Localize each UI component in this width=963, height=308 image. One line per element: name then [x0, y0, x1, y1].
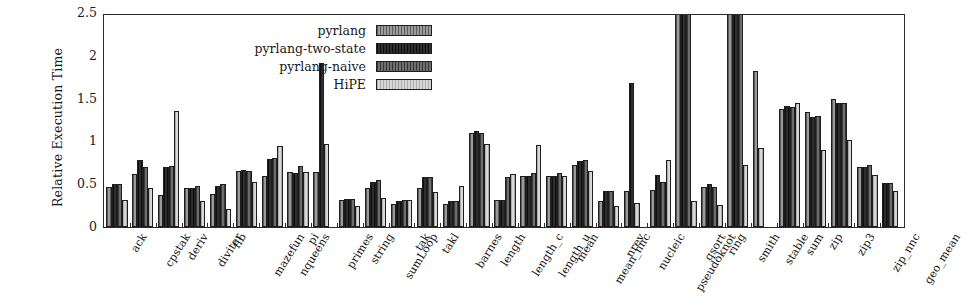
legend: pyrlangpyrlang-two-statepyrlang-naiveHiP… [212, 22, 432, 94]
bar-group [803, 15, 829, 227]
bar [355, 206, 360, 227]
bar-group [440, 15, 466, 227]
bar [634, 203, 639, 227]
x-tick-mark [803, 223, 804, 227]
legend-item: pyrlang [212, 22, 432, 39]
bar-group [751, 15, 777, 227]
bar-group [854, 15, 880, 227]
bar [758, 148, 763, 227]
legend-label: pyrlang [317, 23, 366, 38]
bar [666, 160, 671, 227]
x-tick-mark [414, 223, 415, 227]
y-tick-label: 2 [55, 48, 97, 63]
x-tick-mark [647, 223, 648, 227]
y-tick-label: 1 [55, 133, 97, 148]
x-tick-label: zip3 [855, 231, 879, 258]
bar-group [621, 15, 647, 227]
x-tick-mark [725, 223, 726, 227]
bar-group [647, 15, 673, 227]
x-tick-label: ack [128, 231, 149, 255]
bar-group [130, 15, 156, 227]
bar [686, 14, 691, 227]
bar-group [104, 15, 130, 227]
bar [893, 191, 898, 227]
x-tick-mark [777, 223, 778, 227]
x-tick-mark [828, 223, 829, 227]
bar [174, 111, 179, 227]
x-tick-label: zip_nnc [889, 231, 923, 274]
bar-group [544, 15, 570, 227]
x-tick-mark [466, 223, 467, 227]
x-tick-mark [854, 223, 855, 227]
y-tick-label: 0 [55, 219, 97, 234]
bar [303, 172, 308, 227]
bar [795, 103, 800, 227]
x-tick-label: takl [440, 231, 462, 256]
x-tick-mark [621, 223, 622, 227]
bar-group [596, 15, 622, 227]
legend-swatch-pyrlang-two-state [376, 43, 432, 54]
x-tick-mark [570, 223, 571, 227]
legend-label: pyrlang-two-state [254, 41, 366, 56]
legend-swatch-pyrlang [376, 25, 432, 36]
bar [743, 165, 748, 227]
x-tick-mark [337, 223, 338, 227]
bar [847, 140, 852, 227]
bar [536, 145, 541, 227]
x-tick-mark [285, 223, 286, 227]
bar-group [828, 15, 854, 227]
bar [562, 176, 567, 227]
x-tick-label: nucleic [656, 231, 689, 272]
bar-group [725, 15, 751, 227]
x-tick-mark [311, 223, 312, 227]
x-tick-mark [880, 223, 881, 227]
bar [872, 175, 877, 227]
bar-group [880, 15, 905, 227]
x-tick-label: smith [755, 231, 783, 265]
y-tick-label: 2.5 [55, 5, 97, 20]
x-tick-mark [492, 223, 493, 227]
legend-label: pyrlang-naive [279, 59, 366, 74]
bar-group [570, 15, 596, 227]
x-tick-mark [596, 223, 597, 227]
x-tick-mark [130, 223, 131, 227]
x-tick-label: zip [825, 231, 845, 252]
x-tick-mark [259, 223, 260, 227]
bar-group [466, 15, 492, 227]
bar [407, 200, 412, 227]
bar-group [673, 15, 699, 227]
legend-swatch-pyrlang-naive [376, 61, 432, 72]
x-tick-mark [156, 223, 157, 227]
bar [588, 171, 593, 227]
bar-group [518, 15, 544, 227]
bar [122, 200, 127, 227]
bar [148, 188, 153, 227]
bar [691, 201, 696, 227]
bar-group [492, 15, 518, 227]
bar [226, 209, 231, 227]
legend-label: HiPE [334, 77, 366, 92]
bar [510, 174, 515, 227]
bar-group [777, 15, 803, 227]
bar [381, 198, 386, 227]
bar [433, 192, 438, 227]
x-tick-mark [751, 223, 752, 227]
bar [821, 150, 826, 227]
bar [484, 144, 489, 227]
x-tick-mark [699, 223, 700, 227]
y-tick-label: 0.5 [55, 176, 97, 191]
bar [277, 146, 282, 227]
x-tick-mark [389, 223, 390, 227]
legend-item: pyrlang-naive [212, 58, 432, 75]
x-tick-label: barnes [474, 231, 506, 271]
x-tick-mark [544, 223, 545, 227]
x-tick-mark [207, 223, 208, 227]
bar-group [182, 15, 208, 227]
x-tick-mark [673, 223, 674, 227]
bar-group [156, 15, 182, 227]
bar [324, 144, 329, 227]
legend-item: pyrlang-two-state [212, 40, 432, 57]
x-tick-mark [182, 223, 183, 227]
bar [252, 182, 257, 227]
x-tick-label: geo_mean [922, 231, 963, 286]
